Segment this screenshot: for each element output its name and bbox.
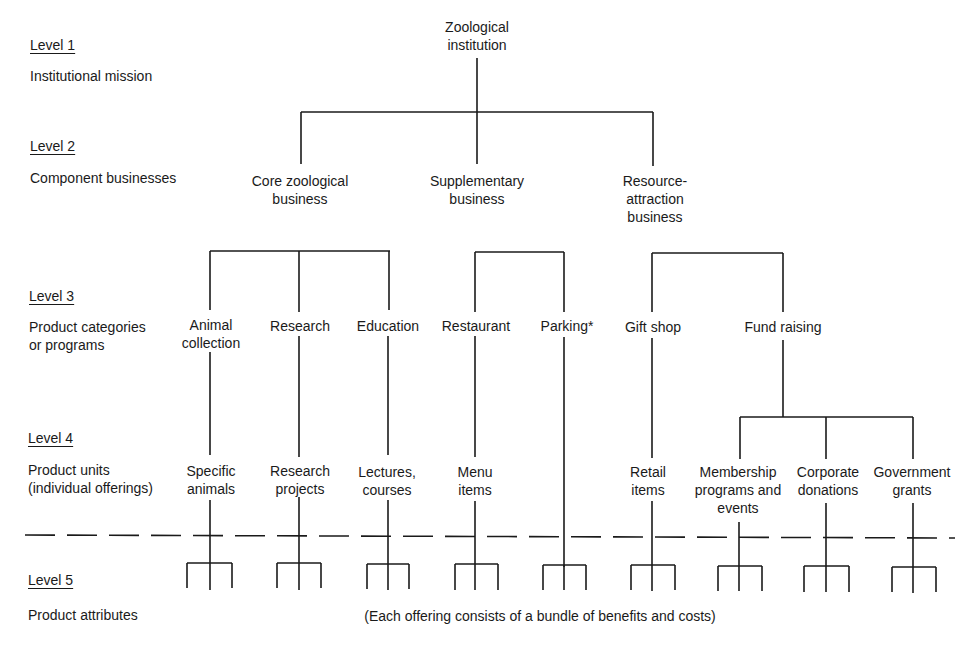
fork-membership: [718, 522, 762, 591]
fork-research-projects: [277, 497, 321, 590]
level-1-title: Level 1: [30, 36, 75, 54]
connectors-level3-level4: [210, 336, 913, 567]
node-specific-animals: Specific animals: [186, 462, 235, 498]
node-restaurant: Restaurant: [442, 317, 510, 335]
level-5-description: Product attributes: [28, 606, 138, 624]
node-menu-items: Menu items: [457, 463, 492, 499]
node-gift-shop: Gift shop: [625, 318, 681, 336]
node-parking: Parking*: [541, 317, 594, 335]
level-4-description: Product units (individual offerings): [28, 461, 153, 497]
node-education: Education: [357, 317, 419, 335]
node-membership-programs-and-events: Membership programs and events: [695, 463, 781, 517]
fork-government-grants: [892, 503, 936, 593]
node-research: Research: [270, 317, 330, 335]
fork-menu-items: [455, 501, 498, 590]
node-retail-items: Retail items: [630, 463, 666, 499]
node-corporate-donations: Corporate donations: [797, 463, 859, 499]
node-zoological-institution: Zoological institution: [445, 18, 509, 54]
node-lectures-courses: Lectures, courses: [358, 463, 416, 499]
node-core-zoological-business: Core zoological business: [252, 172, 349, 208]
level-4-title: Level 4: [28, 429, 73, 447]
node-research-projects: Research projects: [270, 462, 330, 498]
level-2-description: Component businesses: [30, 169, 176, 187]
connectors-level1-level2: [301, 58, 653, 166]
node-fund-raising: Fund raising: [744, 318, 821, 336]
node-government-grants: Government grants: [873, 463, 950, 499]
connectors-supplementary-business: [475, 252, 564, 312]
level-5-title: Level 5: [28, 571, 73, 589]
attributes-note: (Each offering consists of a bundle of b…: [364, 607, 716, 625]
node-animal-collection: Animal collection: [182, 316, 240, 352]
fork-specific-animals: [187, 500, 232, 590]
node-resource-attraction-business: Resource- attraction business: [623, 172, 688, 226]
fork-parking: [543, 565, 586, 590]
fork-retail-items: [631, 501, 675, 591]
level-3-description: Product categories or programs: [29, 318, 146, 354]
fork-corporate-donations: [804, 503, 849, 592]
node-supplementary-business: Supplementary business: [430, 172, 524, 208]
connectors-core-business: [210, 251, 390, 312]
attribute-forks: [187, 497, 936, 593]
level-2-title: Level 2: [30, 137, 75, 155]
level-separator-dashed-line: [25, 535, 955, 538]
level-3-title: Level 3: [29, 287, 74, 305]
connectors-resource-business: [652, 253, 783, 312]
level-1-description: Institutional mission: [30, 67, 152, 85]
fork-lectures-courses: [367, 500, 409, 590]
